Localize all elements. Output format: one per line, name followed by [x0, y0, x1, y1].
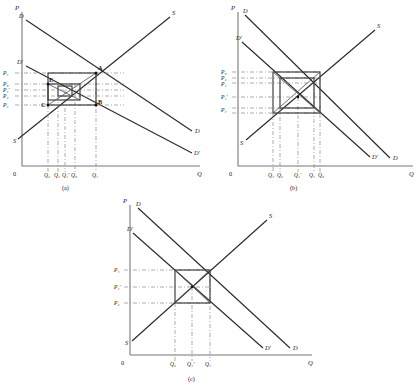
curve-label-s-start: S: [240, 139, 244, 146]
point-label-c: C: [41, 101, 45, 108]
curve-label-s-end: S: [172, 9, 176, 16]
curve-label-s-end: S: [377, 22, 381, 29]
panel-b-plot: P Q 0 D D' D D' S S P₃ P₂ P₁ P₁' P₄ Q₄ Q…: [210, 0, 420, 197]
x-tick-label-0: Q₂: [170, 361, 176, 367]
curve-label-d-end: D: [392, 154, 398, 161]
panel-a: P Q 0 D D' D D' S S A B C E P₁ P₃ P₁' P₂…: [0, 0, 210, 197]
curve-label-s-end: S: [269, 212, 273, 219]
demand-curve-d-prime: [133, 233, 263, 348]
x-tick-label-4: Q₁: [92, 172, 98, 178]
x-tick-label-2: Q₁': [62, 172, 70, 178]
y-axis-label: P: [14, 4, 19, 11]
curve-label-s-start: S: [125, 339, 129, 346]
y-tick-label-0: P₁: [113, 267, 119, 273]
x-axis-label: Q: [197, 170, 202, 177]
curve-label-d-end: D: [292, 344, 298, 351]
demand-curve-d-prime: [242, 42, 370, 157]
curve-label-d-start: D: [135, 200, 141, 207]
y-tick-label-2: P₂: [113, 300, 119, 306]
cobweb-center-marker: [297, 96, 300, 99]
panel-c-plot: P Q 0 D D' D D' S S P₁ P₁' P₂ Q₂ Q₁' Q₁ …: [100, 193, 320, 387]
panel-c-caption: (c): [188, 375, 195, 383]
curve-label-d-start: D: [18, 12, 24, 19]
x-axis-label: Q: [308, 359, 313, 366]
origin-label: 0: [13, 170, 16, 177]
curve-label-d-prime-start: D': [235, 34, 243, 41]
x-axis-label: Q: [409, 170, 414, 177]
supply-curve-s: [18, 17, 170, 139]
curve-label-d-prime-end: D': [264, 344, 272, 351]
x-tick-label-1: Q₄: [54, 172, 60, 178]
x-tick-label-2: Q₁': [294, 172, 302, 178]
y-tick-label-3: P₂: [2, 93, 8, 99]
y-tick-label-3: P₁': [220, 94, 228, 100]
point-label-e: E: [49, 76, 53, 83]
economics-cobweb-figure: P Q 0 D D' D D' S S A B C E P₁ P₃ P₁' P₂…: [0, 0, 420, 387]
curve-label-d-prime-end: D': [371, 153, 379, 160]
curve-label-d-prime-end: D': [193, 149, 201, 156]
y-axis-label: P: [122, 197, 127, 204]
demand-curve-d: [138, 208, 290, 348]
x-tick-label-3: Q₁: [309, 172, 315, 178]
panel-c: P Q 0 D D' D D' S S P₁ P₁' P₂ Q₂ Q₁' Q₁ …: [100, 193, 320, 387]
y-axis-label: P: [230, 4, 235, 11]
x-tick-label-2: Q₁: [205, 361, 211, 367]
x-tick-label-1: Q₂: [277, 172, 283, 178]
y-tick-label-1: P₁': [113, 284, 121, 290]
point-label-b: B: [98, 98, 102, 105]
origin-label: 0: [229, 170, 232, 177]
x-tick-label-3: Q₃: [71, 172, 77, 178]
curve-label-s-start: S: [13, 137, 17, 144]
panel-b: P Q 0 D D' D D' S S P₃ P₂ P₁ P₁' P₄ Q₄ Q…: [210, 0, 420, 197]
y-tick-label-4: P₄: [220, 107, 226, 113]
panel-b-caption: (b): [290, 184, 297, 192]
point-label-a: A: [98, 64, 103, 71]
x-tick-label-0: Q₂: [44, 172, 50, 178]
cobweb-center-marker: [191, 286, 194, 289]
point-c-marker: [47, 104, 50, 107]
curve-label-d-end: D: [194, 127, 200, 134]
x-tick-label-4: Q₃: [318, 172, 324, 178]
panel-a-plot: P Q 0 D D' D D' S S A B C E P₁ P₃ P₁' P₂…: [0, 0, 210, 197]
panel-a-caption: (a): [62, 184, 69, 192]
y-tick-label-0: P₁: [2, 70, 8, 76]
x-tick-label-0: Q₄: [268, 172, 274, 178]
supply-curve-s: [132, 220, 267, 341]
curve-label-d-start: D: [242, 7, 248, 14]
y-tick-label-2: P₁: [220, 81, 226, 87]
origin-label: 0: [121, 359, 124, 366]
curve-label-d-prime-start: D': [16, 58, 24, 65]
x-tick-label-1: Q₁': [187, 361, 195, 367]
curve-label-d-prime-start: D': [126, 225, 134, 232]
y-tick-label-4: P₄: [2, 102, 8, 108]
point-a-marker: [95, 72, 98, 75]
